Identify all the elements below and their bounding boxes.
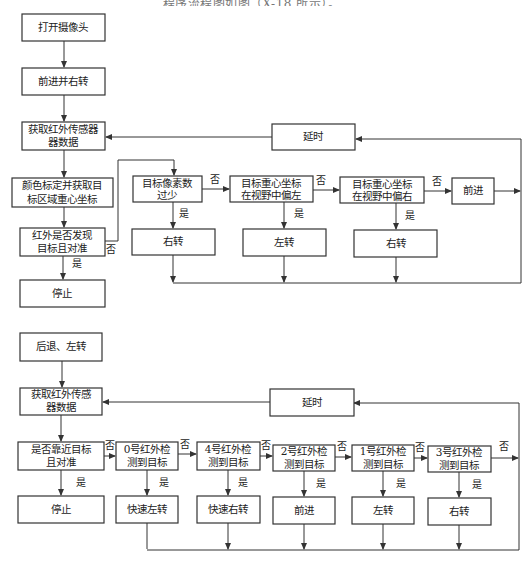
svg-text:颜色标定并获取目: 颜色标定并获取目 (22, 179, 102, 191)
label-yes: 是 (294, 208, 304, 219)
flowchart-diagram: 打开摄像头 前进并右转 获取红外传感器 器数据 颜色标定并获取目 标区域重心坐标… (0, 0, 530, 566)
node-ir4-decision: 4号红外检 测到目标 (197, 442, 260, 470)
node-turn-right: 右转 (428, 498, 491, 525)
node-forward: 前进 (273, 497, 335, 524)
label-no: 否 (432, 176, 442, 187)
node-fast-left: 快速左转 (116, 496, 178, 523)
node-stop: 停止 (18, 496, 104, 523)
node-color-calibration: 颜色标定并获取目 标区域重心坐标 (12, 178, 113, 207)
svg-text:前进: 前进 (463, 184, 484, 196)
node-turn-right-b: 右转 (354, 230, 437, 257)
node-ir2-decision: 2号红外检 测到目标 (273, 445, 335, 471)
label-no: 否 (415, 442, 425, 453)
node-open-camera: 打开摄像头 (22, 14, 105, 41)
svg-text:延时: 延时 (303, 130, 324, 142)
svg-text:测到目标: 测到目标 (439, 459, 480, 471)
svg-text:目标且对准: 目标且对准 (37, 242, 87, 254)
label-yes: 是 (396, 478, 406, 489)
label-yes: 是 (159, 477, 169, 488)
svg-text:右转: 右转 (163, 235, 184, 247)
label-yes: 是 (316, 478, 326, 489)
label-yes: 是 (238, 477, 248, 488)
svg-text:3号红外检: 3号红外检 (436, 446, 484, 458)
svg-text:测到目标: 测到目标 (284, 458, 325, 470)
svg-text:获取红外传感: 获取红外传感 (31, 388, 92, 400)
svg-text:在视野中偏右: 在视野中偏右 (352, 190, 412, 202)
svg-text:0号红外检: 0号红外检 (124, 443, 172, 455)
label-yes: 是 (76, 477, 86, 488)
svg-text:右转: 右转 (449, 505, 470, 517)
label-no: 否 (261, 440, 271, 451)
label-no: 否 (106, 244, 116, 255)
node-delay: 延时 (270, 389, 354, 416)
flowchart-1: 打开摄像头 前进并右转 获取红外传感器 器数据 颜色标定并获取目 标区域重心坐标… (12, 14, 521, 307)
svg-text:快速右转: 快速右转 (208, 503, 249, 515)
svg-text:后退、左转: 后退、左转 (36, 340, 87, 352)
node-near-target-decision: 是否靠近目标 且对准 (18, 442, 104, 470)
svg-text:延时: 延时 (302, 396, 323, 408)
svg-text:右转: 右转 (386, 237, 407, 249)
svg-text:目标重心坐标: 目标重心坐标 (352, 178, 413, 190)
svg-text:器数据: 器数据 (48, 136, 79, 148)
svg-text:是否靠近目标: 是否靠近目标 (31, 443, 92, 455)
svg-text:4号红外检: 4号红外检 (205, 443, 253, 455)
node-back-left: 后退、左转 (20, 333, 102, 361)
node-right-bias-decision: 目标重心坐标 在视野中偏右 (340, 177, 424, 203)
node-forward-right: 前进并右转 (22, 68, 105, 95)
svg-text:过少: 过少 (157, 189, 177, 201)
label-no: 否 (316, 175, 326, 186)
label-yes: 是 (405, 210, 415, 221)
node-delay: 延时 (272, 124, 355, 150)
svg-text:前进: 前进 (294, 504, 315, 516)
node-pixels-few-decision: 目标像素数 过少 (133, 176, 202, 202)
label-no: 否 (210, 174, 220, 185)
svg-text:左转: 左转 (274, 236, 295, 248)
label-yes: 是 (179, 208, 189, 219)
node-turn-left: 左转 (352, 497, 414, 524)
svg-text:停止: 停止 (52, 287, 72, 299)
svg-text:2号红外检: 2号红外检 (281, 445, 329, 457)
svg-text:快速左转: 快速左转 (127, 503, 168, 515)
svg-text:目标重心坐标: 目标重心坐标 (241, 177, 302, 189)
svg-text:测到目标: 测到目标 (208, 456, 249, 468)
label-no: 否 (180, 439, 190, 450)
label-no: 否 (105, 440, 115, 451)
loop-line (147, 403, 519, 550)
node-left-bias-decision: 目标重心坐标 在视野中偏左 (230, 176, 313, 202)
node-ir-found-decision: 红外是否发现 目标且对准 (20, 228, 105, 256)
svg-text:1号红外检: 1号红外检 (360, 445, 408, 457)
label-yes: 是 (472, 479, 482, 490)
svg-text:左转: 左转 (373, 504, 394, 516)
node-ir0-decision: 0号红外检 测到目标 (116, 442, 178, 470)
node-fast-right: 快速右转 (197, 496, 260, 523)
svg-text:获取红外传感器: 获取红外传感器 (28, 123, 99, 135)
loop-line (173, 139, 521, 283)
label-no: 否 (337, 441, 347, 452)
node-turn-left: 左转 (243, 229, 326, 256)
node-ir3-decision: 3号红外检 测到目标 (428, 446, 491, 472)
svg-text:测到目标: 测到目标 (363, 458, 404, 470)
node-get-ir-data: 获取红外传感 器数据 (20, 388, 102, 415)
node-stop: 停止 (20, 280, 105, 307)
svg-text:前进并右转: 前进并右转 (38, 75, 89, 87)
svg-text:停止: 停止 (51, 503, 71, 515)
svg-text:在视野中偏左: 在视野中偏左 (241, 189, 301, 201)
svg-text:红外是否发现: 红外是否发现 (32, 229, 93, 241)
label-no: 否 (499, 441, 509, 452)
svg-text:标区域重心坐标: 标区域重心坐标 (27, 193, 98, 205)
flowchart-2: 后退、左转 获取红外传感 器数据 是否靠近目标 且对准 是 停止 否 0号红外检… (18, 333, 519, 550)
node-turn-right-a: 右转 (132, 229, 215, 255)
svg-text:打开摄像头: 打开摄像头 (38, 21, 88, 33)
svg-text:且对准: 且对准 (46, 456, 76, 468)
svg-text:测到目标: 测到目标 (127, 456, 168, 468)
svg-text:器数据: 器数据 (46, 401, 77, 413)
label-yes: 是 (72, 258, 82, 269)
svg-text:目标像素数: 目标像素数 (142, 177, 193, 189)
node-forward: 前进 (452, 178, 494, 204)
node-ir1-decision: 1号红外检 测到目标 (352, 445, 414, 471)
node-get-ir-data: 获取红外传感器 器数据 (22, 122, 105, 150)
